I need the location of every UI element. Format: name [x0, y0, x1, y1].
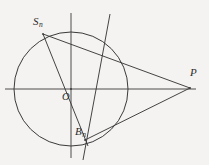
point-label-bn-subscript: n: [82, 130, 86, 139]
point-label-o: O: [62, 92, 70, 103]
geometry-figure: Sn O Bn P: [0, 0, 209, 165]
secants-group: [43, 14, 190, 160]
point-label-o-base: O: [62, 91, 70, 102]
point-marker-sn: [42, 33, 44, 35]
secant-line-sn-p: [43, 34, 190, 88]
point-label-sn: Sn: [33, 16, 42, 27]
secant-line-bn-p: [85, 88, 190, 140]
point-marker-bn: [84, 139, 86, 141]
point-label-bn-base: B: [75, 125, 82, 137]
point-label-p-base: P: [190, 66, 197, 78]
point-label-sn-subscript: n: [39, 20, 43, 29]
point-label-sn-base: S: [33, 15, 39, 27]
point-marker-o: [70, 88, 72, 90]
point-marker-p: [189, 87, 191, 89]
oblique-chord-line: [83, 14, 110, 160]
figure-canvas: [0, 0, 209, 165]
point-label-p: P: [190, 67, 197, 78]
point-label-bn: Bn: [75, 126, 85, 137]
axes-group: [5, 13, 196, 158]
